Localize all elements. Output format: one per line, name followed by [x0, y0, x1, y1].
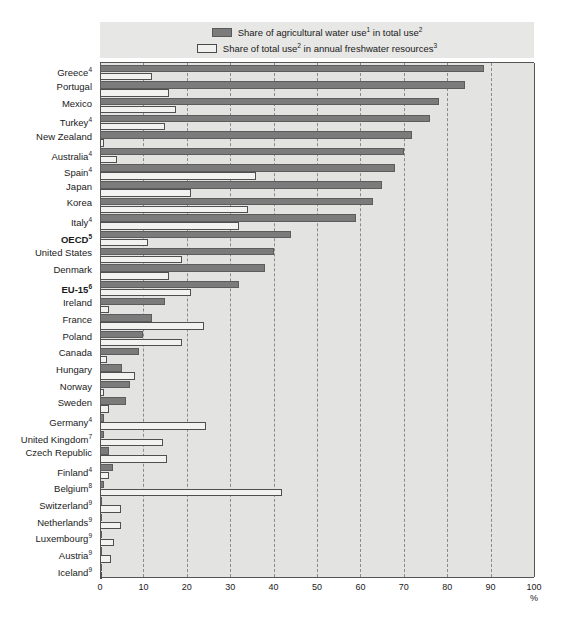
chart-legend: Share of agricultural water use1 in tota… — [100, 22, 534, 58]
gridline-100 — [534, 63, 535, 577]
category-label: Switzerland9 — [39, 498, 92, 511]
bar-agricultural-share — [100, 531, 102, 538]
bar-agricultural-share — [100, 65, 484, 72]
bar-row — [100, 279, 534, 296]
bar-agricultural-share — [100, 298, 165, 305]
bar-row — [100, 429, 534, 446]
axis-tick-90: 90 — [486, 582, 496, 592]
legend-label-agricultural: Share of agricultural water use1 in tota… — [238, 27, 423, 38]
bar-row — [100, 296, 534, 313]
category-label: Italy4 — [71, 215, 92, 228]
bar-agricultural-share — [100, 214, 356, 221]
bar-row — [100, 329, 534, 346]
bar-row — [100, 229, 534, 246]
bar-row — [100, 213, 534, 230]
chart-figure: Share of agricultural water use1 in tota… — [0, 0, 576, 637]
bar-agricultural-share — [100, 331, 143, 338]
category-axis-labels: Greece4PortugalMexicoTurkey4New ZealandA… — [0, 62, 96, 578]
legend-item-agricultural: Share of agricultural water use1 in tota… — [212, 25, 423, 39]
bar-row — [100, 113, 534, 130]
legend-swatch-light-icon — [197, 44, 217, 53]
legend-item-total-use: Share of total use2 in annual freshwater… — [197, 41, 437, 55]
axis-tick-0: 0 — [97, 582, 102, 592]
bar-agricultural-share — [100, 148, 404, 155]
bar-row — [100, 479, 534, 496]
bar-row — [100, 512, 534, 529]
axis-tick-80: 80 — [442, 582, 452, 592]
bar-row — [100, 496, 534, 513]
bar-agricultural-share — [100, 547, 102, 554]
bar-row — [100, 379, 534, 396]
category-label: Australia4 — [51, 149, 92, 162]
bar-agricultural-share — [100, 198, 373, 205]
bar-agricultural-share — [100, 397, 126, 404]
bar-agricultural-share — [100, 447, 109, 454]
category-label: Sweden — [58, 398, 92, 408]
category-label: Turkey4 — [60, 115, 92, 128]
bar-row — [100, 96, 534, 113]
value-axis: 0102030405060708090100 — [100, 578, 534, 608]
bar-row — [100, 80, 534, 97]
axis-unit-label: % — [530, 593, 538, 603]
category-label: Mexico — [62, 99, 92, 109]
category-label: Netherlands9 — [37, 515, 92, 528]
bar-agricultural-share — [100, 248, 274, 255]
category-label: Norway — [60, 382, 92, 392]
axis-tick-10: 10 — [138, 582, 148, 592]
category-label: Japan — [66, 182, 92, 192]
category-label: OECD5 — [61, 232, 92, 245]
bar-row — [100, 180, 534, 197]
bar-row — [100, 313, 534, 330]
bar-agricultural-share — [100, 364, 122, 371]
category-label: Austria9 — [59, 548, 92, 561]
bar-row — [100, 529, 534, 546]
category-label: Czech Republic — [25, 448, 92, 458]
bar-agricultural-share — [100, 348, 139, 355]
bar-agricultural-share — [100, 464, 113, 471]
bar-agricultural-share — [100, 431, 104, 438]
bar-row — [100, 446, 534, 463]
category-label: Canada — [59, 348, 92, 358]
legend-swatch-dark-icon — [212, 28, 232, 37]
bar-agricultural-share — [100, 98, 439, 105]
category-label: Ireland — [63, 298, 92, 308]
bar-agricultural-share — [100, 481, 104, 488]
category-label: Finland4 — [57, 465, 92, 478]
bar-rows — [100, 63, 534, 577]
category-label: Iceland9 — [58, 565, 92, 578]
category-label: EU-156 — [61, 282, 92, 295]
bar-row — [100, 130, 534, 147]
bar-row — [100, 63, 534, 80]
category-label: United Kingdom7 — [21, 432, 92, 445]
axis-tick-50: 50 — [312, 582, 322, 592]
bar-row — [100, 346, 534, 363]
bar-agricultural-share — [100, 81, 465, 88]
bar-row — [100, 163, 534, 180]
bar-row — [100, 562, 534, 579]
bar-agricultural-share — [100, 314, 152, 321]
bar-row — [100, 246, 534, 263]
axis-tick-70: 70 — [399, 582, 409, 592]
category-label: Spain4 — [64, 165, 92, 178]
bar-agricultural-share — [100, 564, 102, 571]
category-label: Germany4 — [49, 415, 92, 428]
axis-tick-100: 100 — [526, 582, 541, 592]
category-label: Belgium8 — [54, 481, 92, 494]
axis-tick-20: 20 — [182, 582, 192, 592]
bar-row — [100, 413, 534, 430]
bar-agricultural-share — [100, 497, 102, 504]
category-label: Korea — [67, 198, 92, 208]
bar-row — [100, 263, 534, 280]
bar-row — [100, 396, 534, 413]
bar-row — [100, 146, 534, 163]
bar-row — [100, 196, 534, 213]
bar-agricultural-share — [100, 164, 395, 171]
plot-area — [100, 62, 534, 578]
bar-agricultural-share — [100, 414, 104, 421]
bar-agricultural-share — [100, 514, 102, 521]
bar-agricultural-share — [100, 264, 265, 271]
legend-label-total-use: Share of total use2 in annual freshwater… — [223, 43, 437, 54]
bar-row — [100, 462, 534, 479]
bar-row — [100, 363, 534, 380]
axis-tick-40: 40 — [269, 582, 279, 592]
